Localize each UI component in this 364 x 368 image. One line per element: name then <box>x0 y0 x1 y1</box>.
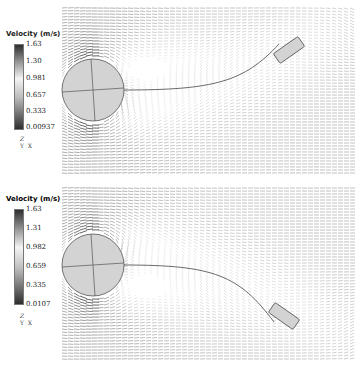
vector-field-top <box>0 0 364 180</box>
axes-indicator-icon: Z Y X <box>20 135 32 149</box>
cylinder-body <box>62 59 124 121</box>
colorbar-tick: 0.982 <box>26 243 46 251</box>
tether-line <box>124 265 274 322</box>
axis-z-label: Z <box>20 135 32 142</box>
colorbar-tick: 1.31 <box>26 224 42 232</box>
colorbar-tick: 0.335 <box>26 281 46 289</box>
colorbar-tick: 1.63 <box>26 205 42 213</box>
tail-body <box>273 36 304 63</box>
colorbar-top <box>14 44 24 130</box>
colorbar-tick: 0.981 <box>26 74 46 82</box>
axis-y-label: Y <box>20 319 24 326</box>
velocity-plot-top: Velocity (m/s) 1.63 1.30 0.981 0.657 0.3… <box>0 0 364 180</box>
colorbar-tick: 1.63 <box>26 40 42 48</box>
cylinder-body <box>62 234 124 296</box>
axis-z-label: Z <box>20 312 32 319</box>
axis-x-label: X <box>28 319 32 326</box>
vector-field-bottom <box>0 180 364 368</box>
tail-body <box>268 302 299 329</box>
colorbar-tick: 0.659 <box>26 262 46 270</box>
axis-y-label: Y <box>20 142 24 149</box>
axes-indicator-icon: Z Y X <box>20 312 32 326</box>
colorbar-tick: 1.30 <box>26 57 42 65</box>
colorbar-bottom <box>14 209 24 305</box>
velocity-plot-bottom: Velocity (m/s) 1.63 1.31 0.982 0.659 0.3… <box>0 180 364 368</box>
colorbar-title: Velocity (m/s) <box>6 30 60 38</box>
colorbar-tick: 0.333 <box>26 107 46 115</box>
colorbar-tick: 0.0107 <box>26 300 51 308</box>
colorbar-title: Velocity (m/s) <box>6 195 60 203</box>
colorbar-tick: 0.657 <box>26 91 46 99</box>
axis-x-label: X <box>28 142 32 149</box>
colorbar-tick: 0.00937 <box>26 123 55 131</box>
